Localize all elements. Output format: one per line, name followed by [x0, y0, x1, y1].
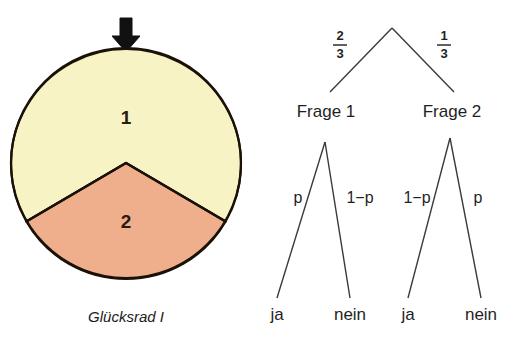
tree-branch-label-3: 1−p [403, 189, 430, 206]
tree-branch-label-4: p [474, 189, 483, 206]
wheel-caption: Glücksrad I [88, 308, 164, 325]
fraction-denominator-left: 3 [336, 46, 343, 61]
tree-edge-frage2-nein [450, 138, 481, 298]
tree-leaf-3: ja [400, 305, 415, 324]
fraction-numerator-right: 1 [440, 28, 447, 43]
tree-branch-label-2: 1−p [346, 189, 373, 206]
tree-group: 2 3 1 3 Frage 1 Frage 2 p 1−p 1−p [269, 28, 497, 324]
tree-edge-frage1-nein [325, 142, 350, 298]
root-branch-label-left: 2 3 [333, 28, 347, 61]
tree-edge-frage2-ja [408, 138, 450, 298]
wheel-group: 1 2 Glücksrad I [11, 18, 241, 325]
tree-node-frage-1: Frage 1 [297, 102, 356, 121]
tree-leaf-4: nein [465, 305, 497, 324]
tree-branch-label-1: p [294, 189, 303, 206]
figure-container: 1 2 Glücksrad I 2 3 1 3 Frage 1 Fr [0, 0, 524, 350]
tree-leaf-2: nein [334, 305, 366, 324]
tree-leaf-1: ja [269, 305, 284, 324]
wheel-sector-label-2: 2 [121, 211, 132, 232]
fraction-denominator-right: 3 [440, 46, 447, 61]
wheel-sector-label-1: 1 [121, 107, 132, 128]
figure-svg: 1 2 Glücksrad I 2 3 1 3 Frage 1 Fr [0, 0, 524, 350]
tree-edge-frage1-ja [277, 142, 325, 298]
fraction-numerator-left: 2 [336, 28, 343, 43]
root-branch-label-right: 1 3 [437, 28, 451, 61]
tree-node-frage-2: Frage 2 [423, 102, 482, 121]
